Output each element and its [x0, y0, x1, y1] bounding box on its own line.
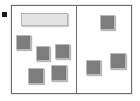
square-tile[interactable]: [16, 35, 31, 50]
screen-root: [0, 0, 140, 101]
square-tile[interactable]: [36, 46, 50, 61]
pane-divider: [76, 6, 77, 93]
square-tile[interactable]: [28, 68, 44, 84]
bullet-marker-icon: [2, 12, 7, 17]
workspace-frame[interactable]: [11, 5, 132, 94]
square-tile[interactable]: [51, 65, 67, 81]
square-tile[interactable]: [100, 15, 115, 30]
bar-tile[interactable]: [21, 13, 68, 26]
square-tile[interactable]: [110, 53, 126, 69]
square-tile[interactable]: [55, 44, 70, 59]
square-tile[interactable]: [86, 60, 101, 75]
